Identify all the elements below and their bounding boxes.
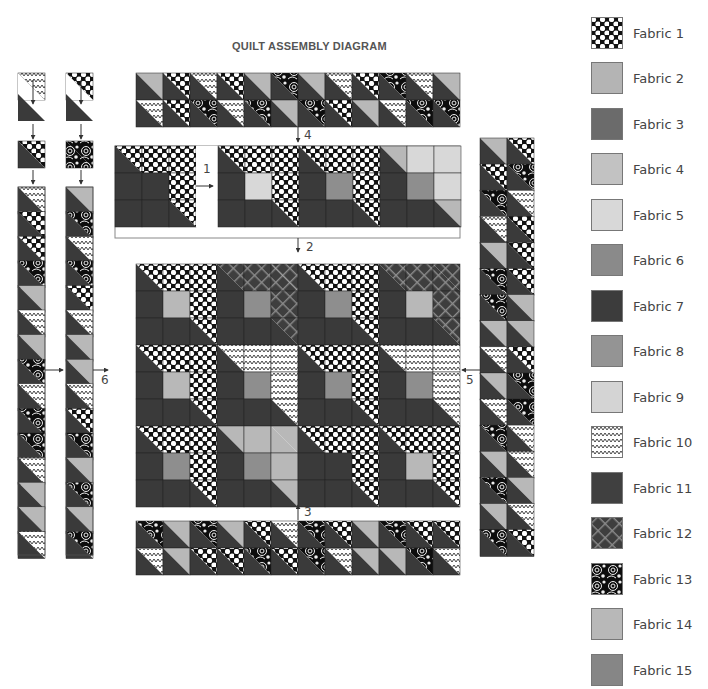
legend-label: Fabric 7: [633, 299, 684, 314]
legend-label: Fabric 6: [633, 253, 684, 268]
fabric-swatch: [591, 17, 623, 49]
fabric-swatch: [591, 381, 623, 413]
legend-item-fabric-3: Fabric 3: [591, 108, 684, 140]
legend-label: Fabric 2: [633, 71, 684, 86]
legend-item-fabric-11: Fabric 11: [591, 472, 692, 504]
step-label-1: 1: [203, 162, 211, 176]
legend-item-fabric-6: Fabric 6: [591, 244, 684, 276]
fabric-swatch: [591, 244, 623, 276]
quilt-assembly-diagram: [0, 0, 580, 689]
fabric-swatch: [591, 199, 623, 231]
legend-label: Fabric 9: [633, 390, 684, 405]
legend-item-fabric-1: Fabric 1: [591, 17, 684, 49]
legend-item-fabric-5: Fabric 5: [591, 199, 684, 231]
legend-label: Fabric 13: [633, 572, 692, 587]
legend-item-fabric-4: Fabric 4: [591, 153, 684, 185]
legend-item-fabric-13: Fabric 13: [591, 563, 692, 595]
legend-label: Fabric 3: [633, 117, 684, 132]
legend-label: Fabric 4: [633, 162, 684, 177]
legend-label: Fabric 14: [633, 617, 692, 632]
fabric-swatch: [591, 608, 623, 640]
fabric-swatch: [591, 290, 623, 322]
legend-label: Fabric 15: [633, 663, 692, 678]
legend-label: Fabric 11: [633, 481, 692, 496]
legend-item-fabric-8: Fabric 8: [591, 335, 684, 367]
fabric-swatch: [591, 563, 623, 595]
fabric-swatch: [591, 426, 623, 458]
fabric-swatch: [591, 654, 623, 686]
step-label-4: 4: [304, 128, 312, 142]
fabric-swatch: [591, 472, 623, 504]
legend-item-fabric-12: Fabric 12: [591, 517, 692, 549]
legend-item-fabric-7: Fabric 7: [591, 290, 684, 322]
legend-item-fabric-10: Fabric 10: [591, 426, 692, 458]
step-label-2: 2: [306, 240, 314, 254]
fabric-swatch: [591, 517, 623, 549]
legend-label: Fabric 1: [633, 26, 684, 41]
legend-label: Fabric 10: [633, 435, 692, 450]
fabric-swatch: [591, 335, 623, 367]
step-label-3: 3: [304, 505, 312, 519]
step-label-5: 5: [466, 373, 474, 387]
legend-item-fabric-14: Fabric 14: [591, 608, 692, 640]
legend-label: Fabric 5: [633, 208, 684, 223]
legend-label: Fabric 12: [633, 526, 692, 541]
step-label-6: 6: [101, 373, 109, 387]
fabric-swatch: [591, 62, 623, 94]
legend-item-fabric-9: Fabric 9: [591, 381, 684, 413]
legend-item-fabric-2: Fabric 2: [591, 62, 684, 94]
fabric-swatch: [591, 108, 623, 140]
legend-item-fabric-15: Fabric 15: [591, 654, 692, 686]
fabric-swatch: [591, 153, 623, 185]
legend-label: Fabric 8: [633, 344, 684, 359]
